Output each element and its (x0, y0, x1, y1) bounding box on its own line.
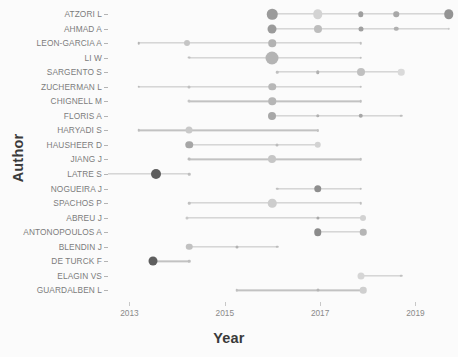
y-tick-label-zucherman-l: ZUCHERMAN L (41, 82, 108, 92)
data-point[interactable] (268, 155, 276, 163)
data-point[interactable] (313, 9, 323, 19)
data-point[interactable] (359, 56, 362, 59)
series-span-line (139, 130, 318, 131)
data-point[interactable] (186, 127, 193, 134)
data-point[interactable] (269, 39, 277, 47)
x-tick-mark-2013 (129, 302, 130, 306)
y-tick-label-atzori-l: ATZORI L (64, 9, 108, 19)
data-point[interactable] (188, 260, 191, 263)
data-point[interactable] (149, 257, 158, 266)
data-point[interactable] (444, 9, 454, 19)
series-span-line (153, 261, 189, 262)
y-tick-label-antonopoulos-a: ANTONOPOULOS A (23, 227, 108, 237)
data-point[interactable] (138, 42, 141, 45)
x-tick-label-2019: 2019 (406, 308, 424, 318)
x-tick-mark-2019 (415, 302, 416, 306)
data-point[interactable] (268, 112, 276, 120)
y-axis-title: Author (10, 118, 26, 198)
data-point[interactable] (151, 169, 161, 179)
y-tick-label-chignell-m: CHIGNELL M (51, 96, 108, 106)
y-tick-label-leon-garcia-a: LEON-GARCIA A (37, 38, 108, 48)
data-point[interactable] (314, 185, 322, 193)
data-point[interactable] (358, 26, 363, 31)
data-point[interactable] (359, 202, 362, 205)
data-point[interactable] (188, 56, 191, 59)
data-point[interactable] (314, 25, 322, 33)
data-point[interactable] (360, 287, 367, 294)
data-point[interactable] (317, 129, 319, 131)
data-point[interactable] (269, 83, 277, 91)
data-point[interactable] (359, 187, 362, 190)
data-point[interactable] (358, 11, 364, 17)
data-point[interactable] (359, 100, 362, 103)
series-span-line (277, 72, 401, 73)
data-point[interactable] (357, 272, 364, 279)
y-tick-label-sargento-s: SARGENTO S (47, 67, 108, 77)
data-point[interactable] (316, 70, 320, 74)
data-point[interactable] (235, 245, 238, 248)
data-point[interactable] (186, 243, 193, 250)
series-span-line (361, 275, 402, 276)
series-span-line (139, 42, 361, 43)
data-point[interactable] (267, 9, 278, 20)
data-point[interactable] (276, 187, 279, 190)
data-point[interactable] (276, 143, 279, 146)
data-point[interactable] (235, 289, 238, 292)
data-point[interactable] (188, 85, 191, 88)
x-tick-label-2017: 2017 (311, 308, 329, 318)
data-point[interactable] (359, 42, 362, 45)
data-point[interactable] (188, 202, 191, 205)
plot-area: 2013201520172019ATZORI LAHMAD ALEON-GARC… (108, 6, 456, 302)
y-tick-label-floris-a: FLORIS A (64, 111, 108, 121)
data-point[interactable] (188, 173, 191, 176)
data-point[interactable] (268, 24, 277, 33)
series-span-line (189, 144, 318, 145)
y-tick-label-ahmad-a: AHMAD A (64, 24, 108, 34)
data-point[interactable] (398, 69, 405, 76)
data-point[interactable] (315, 142, 322, 149)
data-point[interactable] (357, 68, 365, 76)
y-tick-label-hausheer-d: HAUSHEER D (47, 140, 108, 150)
y-tick-label-elagin-vs: ELAGIN VS (57, 271, 108, 281)
author-production-over-time-chart: Author Year 2013201520172019ATZORI LAHMA… (0, 0, 458, 357)
data-point[interactable] (138, 85, 141, 88)
data-point[interactable] (316, 289, 319, 292)
data-point[interactable] (184, 40, 190, 46)
data-point[interactable] (359, 85, 362, 88)
x-tick-mark-2017 (320, 302, 321, 306)
data-point[interactable] (269, 98, 277, 106)
data-point[interactable] (400, 115, 403, 118)
x-axis-title: Year (0, 330, 458, 346)
data-point[interactable] (358, 114, 363, 119)
data-point[interactable] (316, 216, 319, 219)
data-point[interactable] (185, 141, 193, 149)
x-tick-mark-2015 (225, 302, 226, 306)
data-point[interactable] (138, 129, 141, 132)
data-point[interactable] (185, 216, 188, 219)
data-point[interactable] (359, 158, 362, 161)
data-point[interactable] (448, 27, 451, 30)
data-point[interactable] (266, 51, 279, 64)
data-point[interactable] (188, 158, 191, 161)
y-tick-label-blendin-j: BLENDIN J (59, 242, 108, 252)
data-point[interactable] (360, 215, 366, 221)
series-span-line (318, 232, 363, 233)
y-tick-label-latre-s: LATRE S (67, 169, 108, 179)
data-point[interactable] (276, 71, 279, 74)
y-tick-label-nogueira-j: NOGUEIRA J (51, 184, 108, 194)
data-point[interactable] (360, 229, 367, 236)
data-point[interactable] (400, 275, 403, 278)
series-span-line (272, 115, 401, 116)
series-span-line (189, 246, 277, 247)
y-tick-label-jiang-j: JIANG J (70, 154, 108, 164)
y-tick-label-haryadi-s: HARYADI S (57, 125, 108, 135)
y-tick-label-li-w: LI W (85, 53, 108, 63)
data-point[interactable] (394, 11, 400, 17)
data-point[interactable] (394, 26, 399, 31)
data-point[interactable] (314, 228, 322, 236)
data-point[interactable] (268, 199, 277, 208)
data-point[interactable] (188, 100, 191, 103)
series-span-line (139, 86, 361, 87)
data-point[interactable] (316, 114, 320, 118)
data-point[interactable] (276, 245, 279, 248)
